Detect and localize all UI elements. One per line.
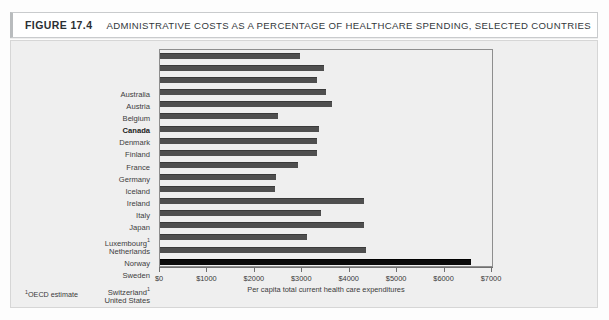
y-axis-label-text: Ireland (127, 199, 150, 208)
bar-row (160, 256, 492, 268)
y-axis-label-text: Belgium (123, 114, 150, 123)
y-axis-label-text: Iceland (126, 187, 151, 196)
bar (160, 210, 321, 216)
bar-row (160, 159, 492, 171)
bar-row (160, 231, 492, 243)
bar-row (160, 98, 492, 110)
figure-title: ADMINISTRATIVE COSTS AS A PERCENTAGE OF … (106, 20, 591, 31)
y-axis-label-footnote-marker: 1 (147, 237, 150, 243)
bar-row (160, 135, 492, 147)
bar (160, 77, 317, 83)
x-axis-tick (254, 267, 255, 272)
y-axis-label-text: Denmark (119, 138, 150, 147)
bar (160, 186, 275, 192)
y-axis-labels: AustraliaAustriaBelgiumCanadaDenmarkFinl… (11, 89, 156, 307)
bar-row (160, 110, 492, 122)
y-axis-label: Sweden (11, 270, 156, 282)
bar-row (160, 86, 492, 98)
bar (160, 198, 364, 204)
bar-rows (160, 50, 492, 266)
y-axis-label: Japan (11, 222, 156, 234)
y-axis-label: France (11, 162, 156, 174)
y-axis-label-text: Canada (123, 126, 150, 135)
bar-row (160, 171, 492, 183)
bar-row (160, 50, 492, 62)
bar-row (160, 123, 492, 135)
y-axis-label: Germany (11, 174, 156, 186)
x-axis-tick (349, 267, 350, 272)
bar (160, 138, 317, 144)
x-axis-tick-label: $5000 (386, 274, 407, 283)
y-axis-label-text: France (126, 163, 150, 172)
bar-row (160, 207, 492, 219)
x-axis-tick (159, 267, 160, 272)
y-axis-label: Norway (11, 258, 156, 270)
y-axis-label-text: Austria (126, 102, 150, 111)
bar (160, 234, 307, 240)
bar-row (160, 195, 492, 207)
y-axis-label: Ireland (11, 198, 156, 210)
y-axis-label-text: Netherlands (109, 247, 150, 256)
y-axis-label: Australia (11, 89, 156, 101)
x-axis-tick-label: $2000 (244, 274, 265, 283)
x-axis-title: Per capita total current health care exp… (159, 285, 493, 294)
x-axis-tick-label: $7000 (481, 274, 502, 283)
y-axis-label: Belgium (11, 113, 156, 125)
x-axis-tick-label: $6000 (433, 274, 454, 283)
bar (160, 101, 332, 107)
bar-row (160, 74, 492, 86)
y-axis-label-text: United States (104, 296, 150, 305)
bar (160, 65, 324, 71)
y-axis-label-text: Norway (124, 259, 150, 268)
plot-area (159, 49, 493, 267)
bar (160, 259, 471, 265)
y-axis-label-text: Finland (125, 150, 150, 159)
bar (160, 113, 278, 119)
x-axis-tick (444, 267, 445, 272)
bar (160, 53, 300, 59)
bar (160, 162, 298, 168)
y-axis-label: Italy (11, 210, 156, 222)
footnote-text: OECD estimate (28, 290, 78, 299)
bar (160, 222, 364, 228)
y-axis-label: Finland (11, 149, 156, 161)
chart-panel: AustraliaAustriaBelgiumCanadaDenmarkFinl… (10, 40, 598, 308)
figure-container: FIGURE 17.4 ADMINISTRATIVE COSTS AS A PE… (0, 0, 609, 320)
bar (160, 126, 319, 132)
x-axis-tick (301, 267, 302, 272)
y-axis-label: Luxembourg1 (11, 234, 156, 246)
y-axis-label: Austria (11, 101, 156, 113)
bar-row (160, 219, 492, 231)
x-axis-tick (396, 267, 397, 272)
y-axis-label-text: Japan (129, 223, 150, 232)
bar-row (160, 244, 492, 256)
y-axis-label: Canada (11, 125, 156, 137)
y-axis-label-text: Australia (120, 90, 150, 99)
x-axis: $0$1000$2000$3000$4000$5000$6000$7000 (159, 267, 493, 268)
bar (160, 247, 366, 253)
bar-row (160, 147, 492, 159)
x-axis-tick-label: $4000 (338, 274, 359, 283)
x-axis-tick-label: $1000 (196, 274, 217, 283)
y-axis-label-text: Germany (119, 175, 150, 184)
x-axis-tick-label: $0 (155, 274, 163, 283)
bar (160, 150, 317, 156)
y-axis-label: Denmark (11, 137, 156, 149)
x-axis-tick-label: $3000 (291, 274, 312, 283)
x-axis-tick (491, 267, 492, 272)
y-axis-label-text: Italy (136, 211, 150, 220)
bar (160, 89, 326, 95)
y-axis-label: Netherlands (11, 246, 156, 258)
bar-row (160, 62, 492, 74)
figure-footnote: 1OECD estimate (25, 289, 78, 299)
y-axis-label: Iceland (11, 186, 156, 198)
bar (160, 174, 276, 180)
x-axis-tick (206, 267, 207, 272)
figure-header: FIGURE 17.4 ADMINISTRATIVE COSTS AS A PE… (10, 12, 598, 38)
bar-row (160, 183, 492, 195)
y-axis-label-footnote-marker: 1 (147, 286, 150, 292)
y-axis-label-text: Sweden (123, 271, 150, 280)
figure-number: FIGURE 17.4 (25, 19, 92, 31)
